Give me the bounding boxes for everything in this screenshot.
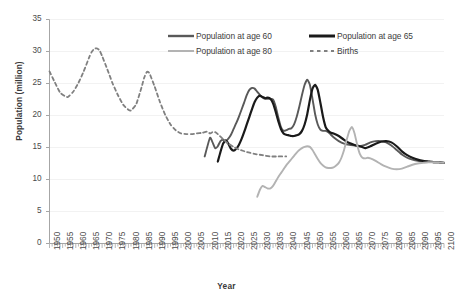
x-tick-label: 2040 [289, 231, 298, 249]
legend-swatch-age60 [168, 31, 194, 41]
x-tick-label: 1950 [53, 231, 62, 249]
x-tick-label: 2075 [381, 231, 390, 249]
x-tick-label: 2045 [303, 231, 312, 249]
legend-label-age80: Population at age 80 [196, 46, 272, 56]
legend-item-age60: Population at age 60 [168, 31, 292, 41]
y-axis-title: Population (million) [14, 46, 24, 156]
x-tick-label: 2085 [408, 231, 417, 249]
x-tick-label: 2035 [276, 231, 285, 249]
x-tick-label: 1985 [145, 231, 154, 249]
x-tick-label: 1975 [118, 231, 127, 249]
x-tick-label: 2030 [263, 231, 272, 249]
legend-label-age65: Population at age 65 [337, 31, 413, 41]
x-tick-label: 2080 [395, 231, 404, 249]
legend-row-1: Population at age 60 Population at age 6… [168, 28, 436, 43]
x-tick-label: 2050 [316, 231, 325, 249]
x-tick-label: 2010 [211, 231, 220, 249]
x-tick-label: 2020 [237, 231, 246, 249]
x-tick-label: 1965 [92, 231, 101, 249]
x-tick-label: 2100 [447, 231, 456, 249]
x-tick-label: 2060 [342, 231, 351, 249]
legend-row-2: Population at age 80 Births [168, 43, 436, 58]
legend-swatch-age65 [309, 31, 335, 41]
x-tick-label: 1955 [66, 231, 75, 249]
legend-item-age65: Population at age 65 [292, 31, 436, 41]
legend-item-age80: Population at age 80 [168, 46, 292, 56]
y-tick-label: 5 [16, 206, 42, 215]
x-axis-title: Year [0, 281, 453, 291]
legend-label-age60: Population at age 60 [196, 31, 272, 41]
legend-item-births: Births [292, 46, 436, 56]
chart-legend: Population at age 60 Population at age 6… [168, 28, 436, 58]
series-line-population-at-age-65 [218, 85, 444, 163]
series-line-births [50, 48, 287, 156]
y-tick-label: 10 [16, 174, 42, 183]
x-tick-label: 1980 [132, 231, 141, 249]
x-tick-label: 1995 [171, 231, 180, 249]
y-axis-ticks [46, 20, 50, 244]
legend-swatch-births [309, 46, 335, 56]
data-series-layer [50, 48, 445, 196]
x-tick-label: 2090 [421, 231, 430, 249]
series-line-population-at-age-80 [257, 127, 444, 197]
x-tick-label: 1970 [105, 231, 114, 249]
y-tick-label: 0 [16, 238, 42, 247]
y-tick-label: 35 [16, 14, 42, 23]
x-tick-label: 2005 [197, 231, 206, 249]
x-tick-label: 2055 [329, 231, 338, 249]
legend-swatch-age80 [168, 46, 194, 56]
x-tick-label: 2065 [355, 231, 364, 249]
legend-label-births: Births [337, 46, 358, 56]
x-tick-label: 2025 [250, 231, 259, 249]
x-tick-label: 1960 [79, 231, 88, 249]
x-tick-label: 2095 [434, 231, 443, 249]
x-tick-label: 1990 [158, 231, 167, 249]
x-tick-label: 2070 [368, 231, 377, 249]
x-tick-label: 2000 [184, 231, 193, 249]
x-tick-label: 2015 [224, 231, 233, 249]
